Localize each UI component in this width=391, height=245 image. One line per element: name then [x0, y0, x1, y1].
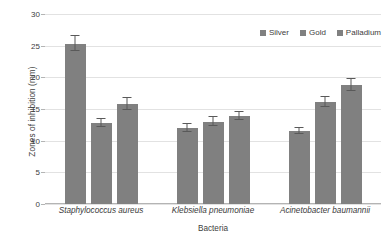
y-axis-tick-mark: [41, 77, 45, 78]
x-axis-category-label: Klebsiella pneumoniae: [157, 206, 269, 215]
bar-slot: [229, 14, 250, 204]
legend-swatch-icon: [337, 30, 343, 36]
y-axis-tick-label: 15: [10, 105, 40, 114]
bar[interactable]: [91, 123, 112, 204]
y-axis-tick-label: 20: [10, 73, 40, 82]
bar-slot: [315, 14, 336, 204]
legend-label: Gold: [309, 28, 326, 37]
x-axis-title: Bacteria: [45, 224, 381, 233]
x-axis-category-label: Acinetobacter baumannii: [269, 206, 381, 215]
error-bar-line: [75, 36, 76, 51]
y-axis-tick-label: 0: [10, 200, 40, 209]
y-axis-tick-mark: [41, 14, 45, 15]
y-axis-tick-label: 30: [10, 10, 40, 19]
y-axis-tick-mark: [41, 109, 45, 110]
legend-label: Palladium: [346, 28, 381, 37]
legend-swatch-icon: [300, 30, 306, 36]
error-bar-cap-lower: [235, 119, 244, 120]
error-bar-cap-lower: [183, 131, 192, 132]
bar-slot: [177, 14, 198, 204]
error-bar-cap-upper: [321, 96, 330, 97]
y-axis-tick-mark: [41, 141, 45, 142]
error-bar-cap-upper: [347, 78, 356, 79]
bar[interactable]: [177, 128, 198, 204]
bar-slot: [65, 14, 86, 204]
error-bar-cap-lower: [123, 109, 132, 110]
bar[interactable]: [315, 102, 336, 204]
bar[interactable]: [65, 44, 86, 204]
legend-item[interactable]: Gold: [300, 28, 326, 37]
y-axis-tick-label: 10: [10, 136, 40, 145]
bar-slot: [117, 14, 138, 204]
x-axis-category-labels: Staphylococcus aureusKlebsiella pneumoni…: [45, 206, 381, 215]
bar-chart: Zones of inhibition (mm) 051015202530 St…: [0, 0, 391, 245]
legend-item[interactable]: Silver: [260, 28, 289, 37]
bar[interactable]: [289, 131, 310, 204]
gridline: [45, 204, 381, 205]
bar-slot: [289, 14, 310, 204]
error-bar-cap-lower: [321, 106, 330, 107]
legend: SilverGoldPalladium: [260, 28, 381, 37]
error-bar-cap-lower: [295, 133, 304, 134]
bar-slot: [91, 14, 112, 204]
error-bar-cap-upper: [97, 118, 106, 119]
plot-area: [45, 14, 381, 204]
bar-group: [45, 14, 157, 204]
error-bar-cap-lower: [97, 126, 106, 127]
error-bar-cap-upper: [71, 35, 80, 36]
error-bar-cap-upper: [209, 116, 218, 117]
y-axis-tick-label: 5: [10, 168, 40, 177]
bar-group: [157, 14, 269, 204]
y-axis-tick-label: 25: [10, 41, 40, 50]
bar-slot: [341, 14, 362, 204]
bar-slot: [203, 14, 224, 204]
legend-label: Silver: [269, 28, 289, 37]
y-axis-tick-mark: [41, 46, 45, 47]
error-bar-cap-lower: [347, 90, 356, 91]
bar-group: [269, 14, 381, 204]
bar[interactable]: [229, 116, 250, 204]
error-bar-cap-lower: [71, 50, 80, 51]
bar[interactable]: [341, 85, 362, 204]
error-bar-cap-upper: [123, 97, 132, 98]
legend-item[interactable]: Palladium: [337, 28, 381, 37]
x-axis-category-label: Staphylococcus aureus: [45, 206, 157, 215]
y-axis-tick-mark: [41, 172, 45, 173]
legend-swatch-icon: [260, 30, 266, 36]
error-bar-cap-lower: [209, 125, 218, 126]
error-bar-cap-upper: [295, 127, 304, 128]
bar[interactable]: [117, 104, 138, 204]
bar-groups: [45, 14, 381, 204]
y-axis-tick-mark: [41, 204, 45, 205]
error-bar-cap-upper: [235, 111, 244, 112]
error-bar-cap-upper: [183, 123, 192, 124]
bar[interactable]: [203, 122, 224, 204]
